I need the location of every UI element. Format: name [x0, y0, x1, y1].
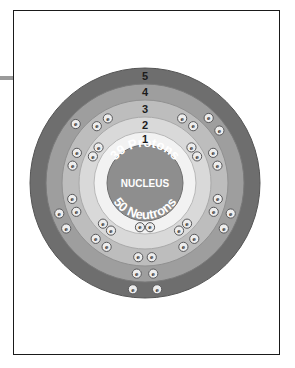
electron-shell-3: e	[68, 194, 77, 203]
electron-shell-4: e	[219, 224, 228, 233]
shell-label-1: 1	[142, 133, 148, 145]
electron-shell-4: e	[62, 224, 71, 233]
electron-shell-4: e	[132, 269, 141, 278]
electron-shell-3: e	[92, 122, 101, 131]
electron-shell-3: e	[91, 234, 100, 243]
electron-shell-2: e	[174, 226, 183, 235]
electron-shell-5: e	[128, 285, 137, 294]
electron-shell-4: e	[226, 209, 235, 218]
shell-label-4: 4	[142, 86, 149, 98]
electron-shell-3: e	[190, 234, 199, 243]
electron-shell-3: e	[102, 242, 111, 251]
electron-shell-3: e	[72, 207, 81, 216]
electron-shell-5: e	[153, 285, 162, 294]
electron-shell-3: e	[213, 194, 222, 203]
nucleus-center-label: NUCLEUS	[121, 178, 170, 189]
electron-shell-3: e	[179, 242, 188, 251]
electron-shell-4: e	[71, 119, 80, 128]
electron-shell-2: e	[98, 219, 107, 228]
electron-shell-2: e	[193, 152, 202, 161]
shell-label-5: 5	[142, 70, 148, 82]
atom-diagram: 39 Protons NUCLEUS 50 Neutrons 12345 eee…	[0, 0, 295, 368]
electron-shell-3: e	[213, 161, 222, 170]
shell-label-2: 2	[142, 119, 148, 131]
electron-shell-2: e	[182, 219, 191, 228]
electron-shell-3: e	[103, 114, 112, 123]
electron-shell-3: e	[178, 114, 187, 123]
electron-shell-3: e	[134, 253, 143, 262]
electron-shell-1: e	[135, 223, 144, 232]
electron-shell-2: e	[106, 226, 115, 235]
electron-shell-3: e	[209, 207, 218, 216]
electron-shell-3: e	[189, 122, 198, 131]
electron-shell-4: e	[204, 113, 213, 122]
nucleus: 39 Protons NUCLEUS 50 Neutrons	[107, 135, 183, 223]
electron-shell-2: e	[88, 152, 97, 161]
electron-shell-2: e	[94, 143, 103, 152]
electron-shell-4: e	[215, 126, 224, 135]
electron-shell-3: e	[68, 161, 77, 170]
electron-shell-3: e	[147, 253, 156, 262]
electron-shell-1: e	[145, 223, 154, 232]
shell-number-labels: 12345	[142, 70, 149, 145]
shell-label-3: 3	[142, 103, 148, 115]
electron-shell-3: e	[72, 148, 81, 157]
electron-shell-4: e	[55, 209, 64, 218]
electron-shell-3: e	[209, 148, 218, 157]
electron-shell-4: e	[149, 269, 158, 278]
electron-shell-2: e	[187, 143, 196, 152]
